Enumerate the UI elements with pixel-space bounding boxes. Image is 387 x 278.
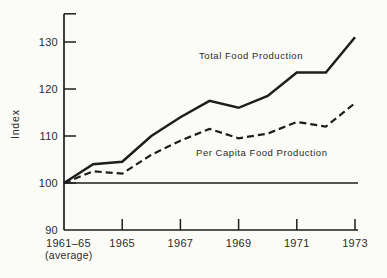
x-tick-label-1965: 1965 [109, 237, 135, 249]
x-tick-label-1969: 1969 [226, 237, 252, 249]
x-tick-label-1973: 1973 [342, 237, 368, 249]
x-tick-label-1971: 1971 [284, 237, 310, 249]
y-tick-label-90: 90 [45, 224, 58, 236]
series-line-per-capita [64, 103, 355, 183]
x-first-label-average: (average) [45, 249, 93, 261]
food-production-index-chart: 13012011010090196519671969197119731961–6… [0, 0, 387, 278]
scanned-chart-page: 13012011010090196519671969197119731961–6… [0, 0, 387, 278]
y-tick-label-110: 110 [40, 130, 58, 142]
x-first-label-years: 1961–65 [46, 237, 91, 249]
y-tick-label-130: 130 [39, 36, 58, 48]
y-tick-label-100: 100 [39, 177, 58, 189]
y-axis-label: Index [9, 109, 21, 139]
x-tick-label-1967: 1967 [168, 237, 194, 249]
chart-canvas: 13012011010090196519671969197119731961–6… [0, 0, 387, 278]
series-label-total-food-production: Total Food Production [199, 50, 303, 61]
y-tick-label-120: 120 [39, 83, 58, 95]
series-label-per-capita-food-production: Per Capita Food Production [196, 147, 328, 158]
